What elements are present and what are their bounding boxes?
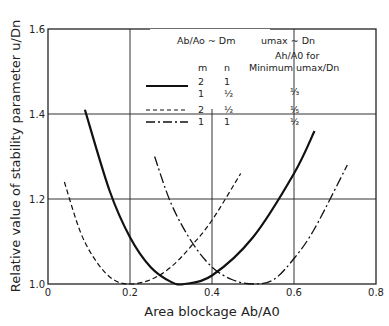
legend: Ab/Ao ~ Dm umax ~ Dn Ah/A0 for Minimum u… — [146, 29, 339, 127]
legend-col-n: n — [224, 62, 230, 73]
legend-m: 1 — [198, 116, 204, 127]
series-dash-dot — [155, 157, 348, 285]
x-tick-label: 0.2 — [122, 287, 138, 298]
x-tick-label: 0.6 — [286, 287, 302, 298]
y-tick-label: 1.0 — [29, 279, 45, 290]
x-axis-label: Area blockage Ab/A0 — [144, 304, 279, 319]
legend-n: 1 — [224, 116, 230, 127]
legend-opt: ⅓ — [290, 86, 299, 97]
y-axis-label: Relative value of stability parameter u/… — [8, 20, 23, 292]
legend-m: 1 — [198, 88, 204, 99]
series-solid — [85, 110, 315, 285]
legend-col-opt-2: Minimum umax/Dn — [249, 62, 339, 73]
legend-col-m: m — [198, 62, 207, 73]
legend-opt: ½ — [290, 116, 299, 127]
legend-n: ½ — [224, 104, 233, 115]
legend-n: ½ — [224, 88, 233, 99]
chart-canvas: 00.20.40.60.81.01.21.41.6 Area blockage … — [0, 0, 389, 326]
y-tick-label: 1.4 — [29, 109, 45, 120]
x-tick-label: 0.8 — [368, 287, 384, 298]
legend-header-left: Ab/Ao ~ Dm — [177, 35, 235, 46]
legend-header-right: umax ~ Dn — [261, 35, 315, 46]
data-series — [64, 110, 347, 285]
legend-opt: ⅕ — [290, 104, 299, 115]
series-dashed — [64, 174, 240, 285]
y-tick-label: 1.6 — [29, 24, 45, 35]
legend-m: 2 — [198, 104, 204, 115]
legend-n: 1 — [224, 76, 230, 87]
legend-m: 2 — [198, 76, 204, 87]
x-tick-label: 0 — [45, 287, 51, 298]
legend-col-opt-1: Ah/A0 for — [275, 50, 319, 61]
x-tick-label: 0.4 — [204, 287, 220, 298]
y-tick-label: 1.2 — [29, 194, 45, 205]
